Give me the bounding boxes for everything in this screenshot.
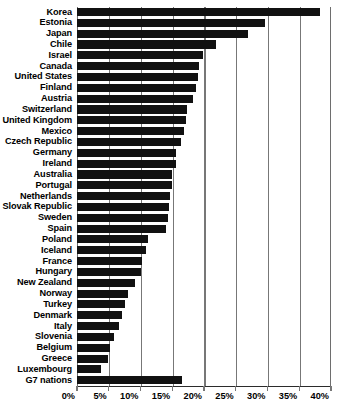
bar-row[interactable] — [77, 213, 331, 223]
bar-row[interactable] — [77, 310, 331, 320]
bar[interactable] — [77, 149, 176, 157]
bar-row[interactable] — [77, 61, 331, 71]
bar[interactable] — [77, 246, 146, 254]
category-label: Mexico — [0, 126, 72, 136]
bar-row[interactable] — [77, 7, 331, 17]
bar-row[interactable] — [77, 234, 331, 244]
bar-row[interactable] — [77, 180, 331, 190]
bar[interactable] — [77, 62, 199, 70]
bar-row[interactable] — [77, 29, 331, 39]
bar-row[interactable] — [77, 289, 331, 299]
bar-row[interactable] — [77, 83, 331, 93]
bar[interactable] — [77, 160, 176, 168]
bar[interactable] — [77, 127, 184, 135]
bar-row[interactable] — [77, 159, 331, 169]
bar-row[interactable] — [77, 39, 331, 49]
bar[interactable] — [77, 170, 172, 178]
category-label: Austria — [0, 93, 72, 103]
bar[interactable] — [77, 95, 193, 103]
bar[interactable] — [77, 73, 198, 81]
bar-row[interactable] — [77, 267, 331, 277]
bar[interactable] — [77, 40, 216, 48]
category-label: Canada — [0, 61, 72, 71]
bar[interactable] — [77, 105, 187, 113]
bar-row[interactable] — [77, 18, 331, 28]
bar-row[interactable] — [77, 224, 331, 234]
category-label: Poland — [0, 234, 72, 244]
bar-row[interactable] — [77, 94, 331, 104]
bar-chart: KoreaEstoniaJapanChileIsraelCanadaUnited… — [0, 0, 343, 409]
category-label: Switzerland — [0, 104, 72, 114]
bar-row[interactable] — [77, 137, 331, 147]
x-tick-label: 15% — [136, 391, 170, 401]
category-label: Denmark — [0, 310, 72, 320]
bar-row[interactable] — [77, 169, 331, 179]
bar-row[interactable] — [77, 202, 331, 212]
bar-row[interactable] — [77, 191, 331, 201]
category-label: Luxembourg — [0, 364, 72, 374]
x-tick-label: 30% — [232, 391, 266, 401]
bar-row[interactable] — [77, 256, 331, 266]
category-label: Slovenia — [0, 331, 72, 341]
bar[interactable] — [77, 181, 172, 189]
bar-row[interactable] — [77, 321, 331, 331]
bar[interactable] — [77, 214, 168, 222]
category-label: Italy — [0, 321, 72, 331]
bar[interactable] — [77, 322, 119, 330]
category-label: Finland — [0, 82, 72, 92]
bar[interactable] — [77, 30, 248, 38]
bar-row[interactable] — [77, 332, 331, 342]
bar[interactable] — [77, 355, 108, 363]
bar[interactable] — [77, 300, 125, 308]
bar-row[interactable] — [77, 148, 331, 158]
bar[interactable] — [77, 116, 186, 124]
bar[interactable] — [77, 311, 122, 319]
bar[interactable] — [77, 203, 169, 211]
bar-row[interactable] — [77, 299, 331, 309]
x-tick-label: 40% — [295, 391, 329, 401]
bar-row[interactable] — [77, 126, 331, 136]
bar[interactable] — [77, 257, 142, 265]
category-label: Czech Republic — [0, 136, 72, 146]
bar-row[interactable] — [77, 354, 331, 364]
bar[interactable] — [77, 376, 182, 384]
category-label: Slovak Republic — [0, 201, 72, 211]
bar[interactable] — [77, 51, 203, 59]
bar-row[interactable] — [77, 72, 331, 82]
bar-row[interactable] — [77, 115, 331, 125]
bar[interactable] — [77, 8, 320, 16]
bar[interactable] — [77, 268, 141, 276]
bar-row[interactable] — [77, 278, 331, 288]
bar[interactable] — [77, 279, 135, 287]
bar[interactable] — [77, 333, 114, 341]
category-label: Greece — [0, 353, 72, 363]
bar-row[interactable] — [77, 375, 331, 385]
x-tick-label: 0% — [41, 391, 75, 401]
bar[interactable] — [77, 290, 128, 298]
category-label: Estonia — [0, 17, 72, 27]
x-tick-label: 20% — [168, 391, 202, 401]
category-label: Hungary — [0, 266, 72, 276]
bar-row[interactable] — [77, 343, 331, 353]
bar[interactable] — [77, 344, 110, 352]
bar[interactable] — [77, 84, 196, 92]
category-label: Japan — [0, 28, 72, 38]
category-label: Netherlands — [0, 191, 72, 201]
category-label: Spain — [0, 223, 72, 233]
bar-row[interactable] — [77, 50, 331, 60]
bar[interactable] — [77, 138, 181, 146]
bar[interactable] — [77, 235, 148, 243]
category-label: Turkey — [0, 299, 72, 309]
bar[interactable] — [77, 225, 166, 233]
bar-row[interactable] — [77, 364, 331, 374]
bar[interactable] — [77, 192, 170, 200]
bar-row[interactable] — [77, 245, 331, 255]
category-label: Portugal — [0, 180, 72, 190]
category-label: Israel — [0, 50, 72, 60]
bar[interactable] — [77, 19, 265, 27]
x-tick-label: 35% — [263, 391, 297, 401]
bar-row[interactable] — [77, 104, 331, 114]
bar[interactable] — [77, 365, 101, 373]
category-label: United Kingdom — [0, 115, 72, 125]
x-tick-mark — [330, 386, 331, 391]
